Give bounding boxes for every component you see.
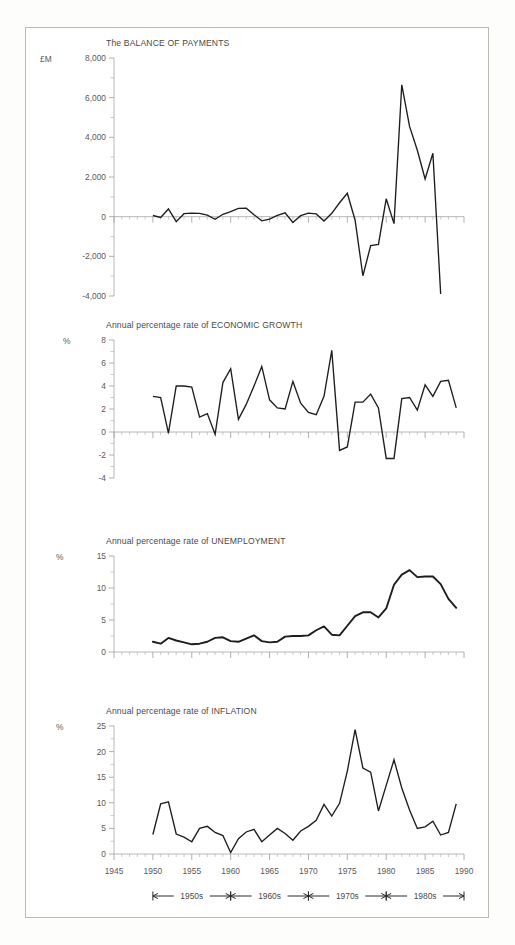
chart-title-economic-growth: Annual percentage rate of ECONOMIC GROWT… xyxy=(106,320,302,330)
chart-panel-economic-growth: Annual percentage rate of ECONOMIC GROWT… xyxy=(26,310,490,490)
unemployment-svg: Annual percentage rate of UNEMPLOYMENT %… xyxy=(26,526,490,666)
x-axis-tick-labels: 1945195019551960196519701975198019851990 xyxy=(105,866,474,876)
x-tick-label: 1975 xyxy=(338,866,357,876)
figure-page: The BALANCE OF PAYMENTS £M -4,000-2,0000… xyxy=(0,0,515,945)
y-tick-label: 2,000 xyxy=(85,172,106,182)
y-unit-label-balance-of-payments: £M xyxy=(40,54,52,64)
x-tick-label: 1990 xyxy=(455,866,474,876)
y-axis-economic-growth: -4-202468 xyxy=(99,335,114,483)
x-tick-label: 1980 xyxy=(377,866,396,876)
y-tick-label: 6,000 xyxy=(85,93,106,103)
decade-label: 1960s xyxy=(258,891,281,901)
x-tick-label: 1970 xyxy=(299,866,318,876)
y-tick-label: 4,000 xyxy=(85,132,106,142)
x-tick-label: 1965 xyxy=(260,866,279,876)
decade-label: 1950s xyxy=(180,891,203,901)
x-tick-label: 1950 xyxy=(144,866,163,876)
balance-of-payments-svg: The BALANCE OF PAYMENTS £M -4,000-2,0000… xyxy=(26,28,490,308)
y-tick-label: 2 xyxy=(101,404,106,414)
x-axis-inflation xyxy=(114,854,464,860)
decade-label: 1970s xyxy=(336,891,359,901)
decade-label: 1980s xyxy=(414,891,437,901)
y-axis-inflation: 0510152025 xyxy=(97,721,114,859)
x-axis-unemployment xyxy=(114,652,464,658)
decade-scale-bar: 1950s1960s1970s1980s xyxy=(153,891,464,901)
chart-panel-unemployment: Annual percentage rate of UNEMPLOYMENT %… xyxy=(26,526,490,666)
y-tick-label: 0 xyxy=(101,849,106,859)
y-axis-unemployment: 051015 xyxy=(97,551,114,657)
y-tick-label: 8,000 xyxy=(85,53,106,63)
chart-title-balance-of-payments: The BALANCE OF PAYMENTS xyxy=(106,38,230,48)
x-axis-economic-growth xyxy=(114,432,464,438)
y-tick-label: 5 xyxy=(101,823,106,833)
chart-title-unemployment: Annual percentage rate of UNEMPLOYMENT xyxy=(106,536,286,546)
y-tick-label: 20 xyxy=(97,747,107,757)
y-tick-label: 0 xyxy=(101,647,106,657)
y-axis-balance-of-payments: -4,000-2,00002,0004,0006,0008,000 xyxy=(82,53,114,301)
x-tick-label: 1960 xyxy=(221,866,240,876)
y-tick-label: -4 xyxy=(99,473,107,483)
chart-title-inflation: Annual percentage rate of INFLATION xyxy=(106,706,257,716)
y-tick-label: -4,000 xyxy=(82,291,106,301)
y-tick-label: 8 xyxy=(101,335,106,345)
x-tick-label: 1985 xyxy=(416,866,435,876)
y-tick-label: -2 xyxy=(99,450,107,460)
series-line-inflation xyxy=(153,730,456,853)
y-unit-label-inflation: % xyxy=(56,722,64,732)
y-unit-label-economic-growth: % xyxy=(63,336,71,346)
series-line-economic-growth xyxy=(153,350,456,458)
y-tick-label: 4 xyxy=(101,381,106,391)
economic-growth-svg: Annual percentage rate of ECONOMIC GROWT… xyxy=(26,310,490,490)
y-tick-label: 10 xyxy=(97,583,107,593)
y-tick-label: -2,000 xyxy=(82,251,106,261)
figure-frame: The BALANCE OF PAYMENTS £M -4,000-2,0000… xyxy=(25,27,489,918)
chart-panel-balance-of-payments: The BALANCE OF PAYMENTS £M -4,000-2,0000… xyxy=(26,28,490,308)
x-tick-label: 1955 xyxy=(182,866,201,876)
y-tick-label: 0 xyxy=(101,427,106,437)
y-tick-label: 6 xyxy=(101,358,106,368)
y-tick-label: 0 xyxy=(101,212,106,222)
y-unit-label-unemployment: % xyxy=(56,552,64,562)
y-tick-label: 10 xyxy=(97,798,107,808)
y-tick-label: 15 xyxy=(97,551,107,561)
x-tick-label: 1945 xyxy=(105,866,124,876)
chart-panel-inflation: Annual percentage rate of INFLATION % 05… xyxy=(26,696,490,916)
series-line-unemployment xyxy=(153,570,456,644)
y-tick-label: 25 xyxy=(97,721,107,731)
series-line-balance-of-payments xyxy=(153,85,441,294)
y-tick-label: 15 xyxy=(97,772,107,782)
y-tick-label: 5 xyxy=(101,615,106,625)
inflation-svg: Annual percentage rate of INFLATION % 05… xyxy=(26,696,490,916)
